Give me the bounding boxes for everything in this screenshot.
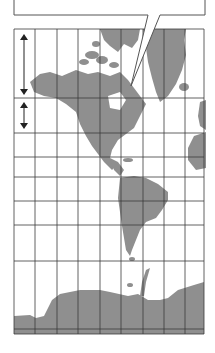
map-figure [0, 0, 215, 353]
arctic-islands [100, 29, 140, 52]
mercator-map [0, 0, 215, 353]
north-america [30, 70, 146, 170]
landmasses [14, 29, 206, 334]
west-africa [188, 132, 206, 170]
western-europe [198, 100, 206, 130]
antarctica [14, 282, 204, 334]
antarctic-peninsula [140, 268, 150, 296]
